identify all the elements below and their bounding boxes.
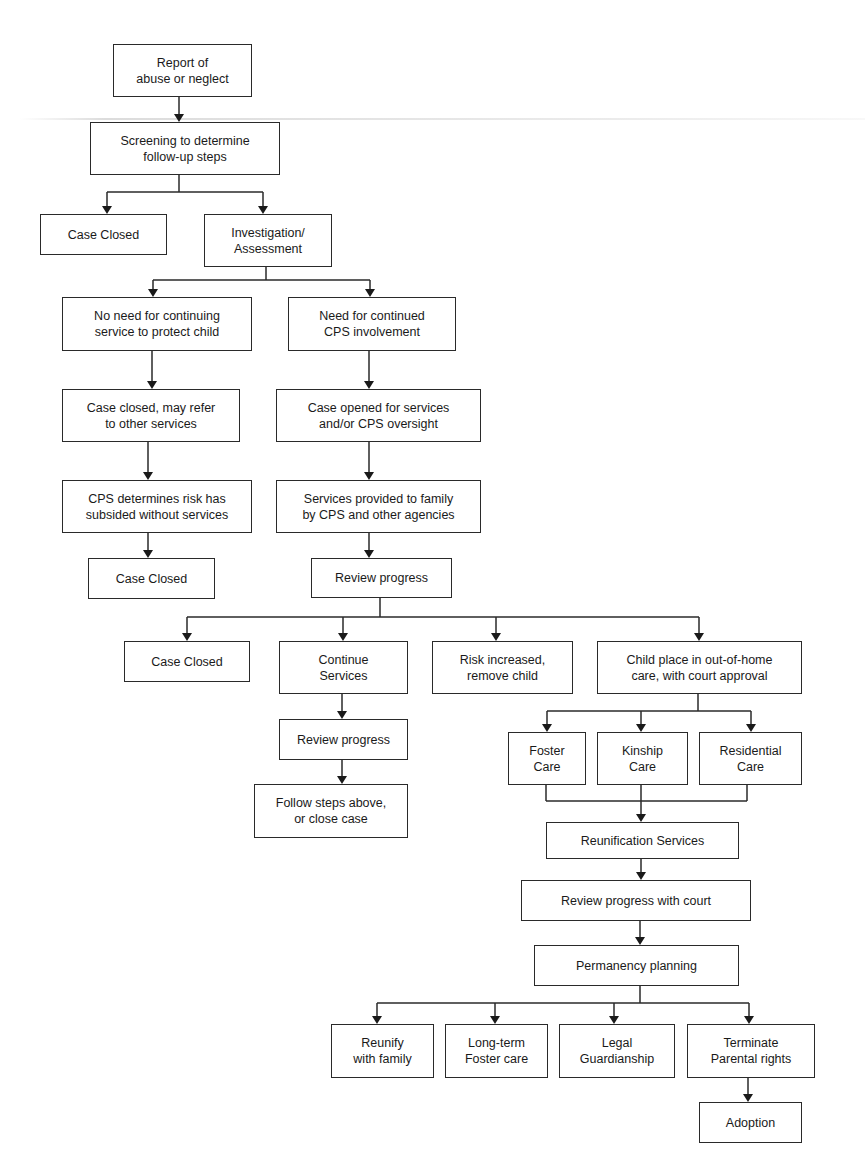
node-case-closed-refer: Case closed, may refer to other services bbox=[62, 389, 240, 442]
scan-artifact-line bbox=[20, 118, 865, 120]
node-reunification-services: Reunification Services bbox=[546, 822, 739, 859]
node-screening: Screening to determine follow-up steps bbox=[90, 122, 280, 175]
node-services-provided: Services provided to family by CPS and o… bbox=[276, 480, 481, 533]
node-risk-increased: Risk increased, remove child bbox=[432, 641, 573, 694]
node-out-of-home-care: Child place in out-of-home care, with co… bbox=[597, 641, 802, 694]
node-review-progress-court: Review progress with court bbox=[521, 880, 751, 921]
node-review-progress-1: Review progress bbox=[311, 558, 452, 598]
node-permanency-planning: Permanency planning bbox=[534, 945, 739, 986]
node-risk-subsided: CPS determines risk has subsided without… bbox=[62, 480, 252, 533]
node-foster-care: Foster Care bbox=[508, 732, 586, 785]
node-case-closed-2: Case Closed bbox=[88, 558, 215, 599]
node-terminate-rights: Terminate Parental rights bbox=[687, 1024, 815, 1078]
node-legal-guardianship: Legal Guardianship bbox=[559, 1024, 675, 1078]
node-reunify-family: Reunify with family bbox=[331, 1024, 434, 1078]
node-long-term-foster: Long-term Foster care bbox=[445, 1024, 548, 1078]
node-follow-steps: Follow steps above, or close case bbox=[254, 784, 408, 838]
node-review-progress-2: Review progress bbox=[279, 719, 408, 760]
node-need-continued: Need for continued CPS involvement bbox=[288, 297, 456, 351]
node-investigation: Investigation/ Assessment bbox=[204, 214, 332, 267]
node-case-closed-1: Case Closed bbox=[40, 214, 167, 255]
node-no-need: No need for continuing service to protec… bbox=[62, 297, 252, 351]
node-adoption: Adoption bbox=[699, 1102, 802, 1143]
node-kinship-care: Kinship Care bbox=[597, 732, 688, 785]
node-report-of-abuse: Report of abuse or neglect bbox=[113, 44, 252, 97]
node-continue-services: Continue Services bbox=[279, 641, 408, 694]
node-residential-care: Residential Care bbox=[699, 732, 802, 785]
node-case-opened: Case opened for services and/or CPS over… bbox=[276, 389, 481, 442]
node-case-closed-3: Case Closed bbox=[124, 641, 250, 682]
